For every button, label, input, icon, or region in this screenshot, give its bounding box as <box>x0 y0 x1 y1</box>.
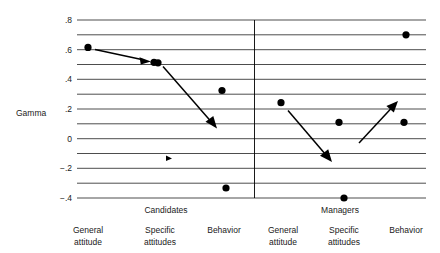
data-point <box>222 184 229 191</box>
data-point <box>335 119 342 126</box>
stray-arrow-head <box>166 156 172 162</box>
annotation-arrows-group <box>95 50 398 163</box>
group-label-candidates: Candidates <box>144 205 187 215</box>
data-point <box>218 87 225 94</box>
category-label-specific-attitudes-candidates: Specific <box>145 225 176 235</box>
data-point <box>154 59 161 66</box>
category-labels-candidates: General attitude Specific attitudes Beha… <box>73 225 241 247</box>
data-point <box>402 31 409 38</box>
ytick-label: 0 <box>67 134 72 144</box>
ytick-label: .6 <box>65 45 72 55</box>
category-label-specific-attitudes-managers: Specific <box>329 225 360 235</box>
data-point <box>340 194 347 201</box>
y-axis-ticks: .8 .6 .4 .2 0 −.2 −.4 <box>60 15 72 203</box>
data-point <box>277 99 284 106</box>
chart-canvas: .8 .6 .4 .2 0 −.2 −.4 Gamma <box>0 0 440 253</box>
ytick-label: .8 <box>65 15 72 25</box>
data-points-group <box>84 31 409 201</box>
ytick-label: .2 <box>65 104 72 114</box>
category-label-general-attitude-managers-line2: attitude <box>269 237 297 247</box>
gridlines-group <box>77 20 426 198</box>
data-point <box>400 119 407 126</box>
group-label-managers: Managers <box>321 205 359 215</box>
category-label-behavior-managers: Behavior <box>389 225 423 235</box>
category-label-specific-attitudes-managers-line2: attitudes <box>328 237 360 247</box>
ytick-label: −.4 <box>60 193 72 203</box>
arrow-managers-up <box>359 101 398 143</box>
gamma-scatter-chart: .8 .6 .4 .2 0 −.2 −.4 Gamma <box>0 0 440 253</box>
category-labels-managers: General attitude Specific attitudes Beha… <box>268 225 423 247</box>
arrow-managers-down <box>288 111 332 163</box>
arrow-candidates-2 <box>163 67 217 129</box>
ytick-label: .4 <box>65 74 72 84</box>
data-point <box>84 44 91 51</box>
category-label-general-attitude-managers: General <box>268 225 298 235</box>
category-label-behavior-candidates: Behavior <box>207 225 241 235</box>
y-axis-title: Gamma <box>16 108 47 118</box>
category-label-general-attitude-candidates: General <box>73 225 103 235</box>
ytick-label: −.2 <box>60 163 72 173</box>
arrow-candidates-1 <box>95 50 151 65</box>
category-label-general-attitude-candidates-line2: attitude <box>74 237 102 247</box>
category-label-specific-attitudes-candidates-line2: attitudes <box>144 237 176 247</box>
